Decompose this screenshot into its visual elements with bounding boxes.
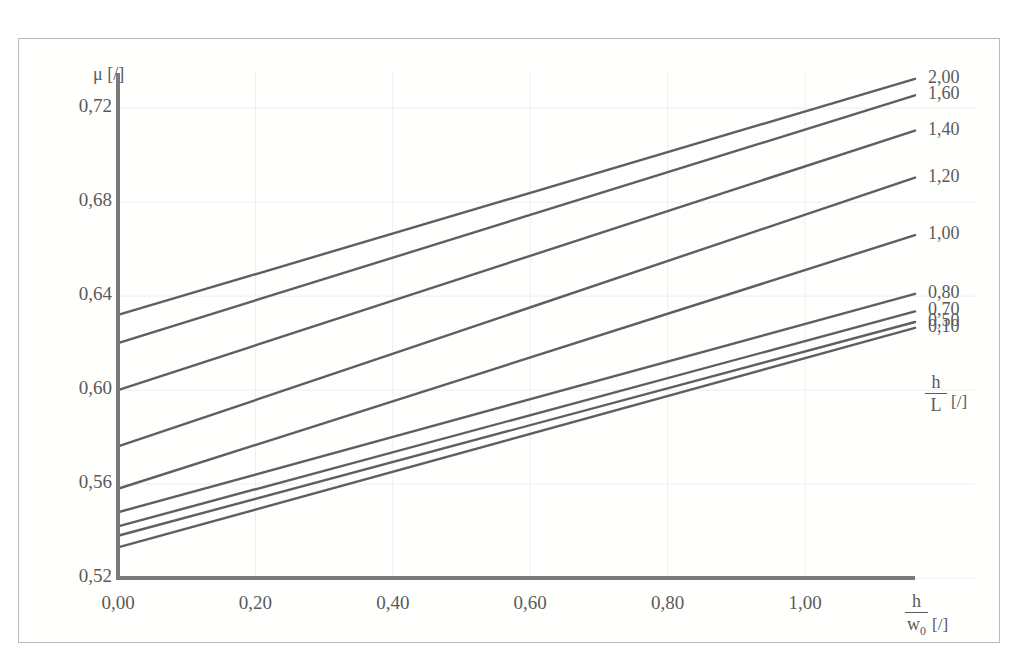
series-label-1-20: 1,20 <box>928 166 960 187</box>
legend-title: h L [/] <box>925 373 967 414</box>
legend-title-unit: [/] <box>951 392 967 414</box>
x-tick-label: 0,00 <box>83 592 153 614</box>
y-tick-label: 0,56 <box>42 471 112 493</box>
x-axis-title-unit: [/] <box>932 615 948 637</box>
x-axis-title-fraction: h w0 <box>905 592 928 637</box>
series-line-0-50 <box>118 322 915 536</box>
legend-title-fraction: h L <box>925 373 947 414</box>
legend-title-denominator: L <box>929 396 944 414</box>
series-lines <box>118 79 915 548</box>
x-tick-label: 0,60 <box>495 592 565 614</box>
y-axis-title: μ [/] <box>93 64 124 85</box>
y-tick-label: 0,60 <box>42 377 112 399</box>
series-label-1-00: 1,00 <box>928 223 960 244</box>
x-tick-label: 0,40 <box>358 592 428 614</box>
x-axis-title: h w0 [/] <box>905 592 948 637</box>
fraction-bar <box>905 612 928 613</box>
y-tick-label: 0,72 <box>42 95 112 117</box>
series-line-0-80 <box>118 294 915 512</box>
legend-title-numerator: h <box>930 373 943 391</box>
y-axis-title-unit: [/] <box>107 64 124 84</box>
series-line-1-20 <box>118 178 915 447</box>
chart-figure: μ [/] 0,520,560,600,640,680,72 0,000,200… <box>0 0 1017 670</box>
x-axis-title-denominator: w0 <box>905 615 928 637</box>
series-line-1-60 <box>118 95 915 343</box>
series-line-2-00 <box>118 79 915 315</box>
y-tick-label: 0,68 <box>42 189 112 211</box>
y-tick-label: 0,64 <box>42 283 112 305</box>
plot-canvas <box>0 0 1017 670</box>
series-label-0-10: 0,10 <box>928 316 960 337</box>
y-tick-label: 0,52 <box>42 565 112 587</box>
series-label-1-40: 1,40 <box>928 119 960 140</box>
x-tick-label: 0,80 <box>633 592 703 614</box>
series-line-1-40 <box>118 131 915 391</box>
fraction-bar <box>925 393 947 394</box>
x-tick-label: 1,00 <box>770 592 840 614</box>
series-label-1-60: 1,60 <box>928 83 960 104</box>
x-tick-label: 0,20 <box>220 592 290 614</box>
series-line-0-70 <box>118 311 915 526</box>
y-axis-title-symbol: μ <box>93 64 103 84</box>
x-axis-title-numerator: h <box>910 592 923 610</box>
